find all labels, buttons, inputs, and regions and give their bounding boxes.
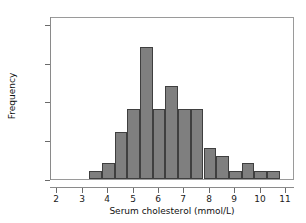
x-axis-tick <box>285 188 286 193</box>
histogram-bar <box>89 171 102 179</box>
x-axis-tick-label: 2 <box>44 194 68 204</box>
histogram-figure: 05101520 234567891011 Serum cholesterol … <box>0 0 306 223</box>
x-axis-tick <box>209 188 210 193</box>
histogram-bar <box>127 109 140 179</box>
plot-area <box>50 17 294 180</box>
x-axis-tick <box>260 188 261 193</box>
y-axis-tick <box>45 64 50 65</box>
y-axis-line <box>50 17 51 180</box>
x-axis-tick-label: 9 <box>222 194 246 204</box>
histogram-bar <box>216 156 229 179</box>
x-axis-line <box>50 187 294 188</box>
histogram-bar <box>115 132 128 179</box>
histogram-bar <box>153 109 166 179</box>
x-axis-tick-label: 11 <box>273 194 297 204</box>
histogram-bar <box>267 171 280 179</box>
histogram-bar <box>254 171 267 179</box>
histogram-bar <box>165 86 178 179</box>
y-axis-tick <box>45 141 50 142</box>
y-axis-title: Frequency <box>7 51 17 141</box>
x-axis-tick <box>158 188 159 193</box>
x-axis-tick <box>107 188 108 193</box>
y-axis-tick <box>45 102 50 103</box>
x-axis-tick <box>183 188 184 193</box>
histogram-bar <box>242 163 255 179</box>
x-axis-tick <box>56 188 57 193</box>
x-axis-tick-label: 3 <box>70 194 94 204</box>
histogram-bar <box>140 47 153 179</box>
y-axis-tick <box>45 25 50 26</box>
histogram-bar <box>204 148 217 179</box>
x-axis-tick <box>133 188 134 193</box>
x-axis-tick-label: 6 <box>146 194 170 204</box>
x-axis-tick-label: 5 <box>121 194 145 204</box>
x-axis-tick-label: 7 <box>171 194 195 204</box>
histogram-bar <box>102 163 115 179</box>
x-axis-tick-label: 4 <box>95 194 119 204</box>
histogram-bar <box>178 109 191 179</box>
x-axis-tick <box>82 188 83 193</box>
bars-layer <box>51 18 293 179</box>
histogram-bar <box>191 109 204 179</box>
x-axis-tick-label: 10 <box>248 194 272 204</box>
x-axis-title: Serum cholesterol (mmol/L) <box>50 206 294 216</box>
x-axis-tick <box>234 188 235 193</box>
x-axis-tick-label: 8 <box>197 194 221 204</box>
y-axis-tick <box>45 180 50 181</box>
histogram-bar <box>229 171 242 179</box>
